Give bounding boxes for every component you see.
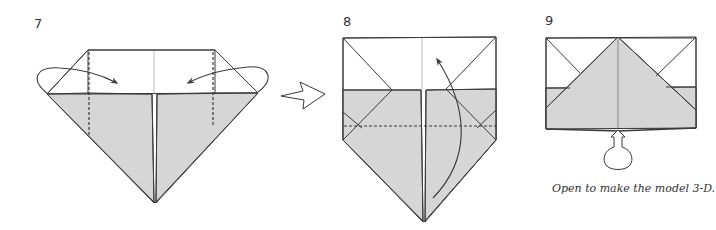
hollow-right-arrow-icon <box>281 82 325 109</box>
inflate-open-arrow-icon <box>604 130 632 170</box>
step-7-top-flap <box>47 50 258 94</box>
step-8-shaded-right <box>425 89 496 222</box>
step-8-diagram <box>343 37 496 222</box>
step-8-shaded-left <box>343 90 423 222</box>
step-7-diagram <box>37 50 268 203</box>
step-9-caption: Open to make the model 3-D. <box>552 182 715 195</box>
step-9-diagram <box>546 37 696 170</box>
